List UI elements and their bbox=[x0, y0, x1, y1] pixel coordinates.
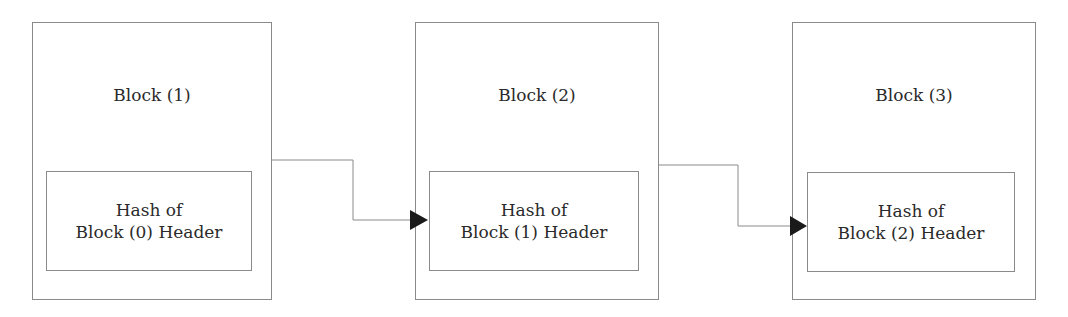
connector-block1-to-block2 bbox=[272, 160, 428, 230]
connectors bbox=[0, 0, 1068, 317]
connector-block2-to-block3 bbox=[659, 165, 807, 236]
arrowhead-icon bbox=[410, 210, 428, 230]
arrowhead-icon bbox=[790, 216, 807, 236]
